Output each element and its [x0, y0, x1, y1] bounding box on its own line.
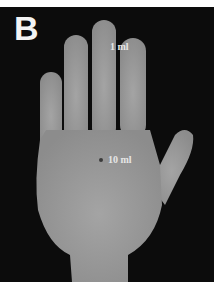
hand-photograph: B 1 ml 10 ml [0, 7, 214, 282]
annotation-1ml: 1 ml [110, 41, 129, 52]
ring-finger [64, 35, 88, 145]
hand-illustration [0, 7, 214, 282]
panel-label: B [14, 10, 39, 46]
annotation-10ml: 10 ml [108, 154, 132, 165]
injection-point-marker [99, 158, 103, 162]
index-finger [120, 38, 146, 138]
palm [36, 130, 162, 282]
middle-finger [92, 20, 116, 140]
